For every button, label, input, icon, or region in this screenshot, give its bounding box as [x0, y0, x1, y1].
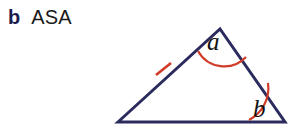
angle-b-label: b [253, 95, 266, 122]
triangle-diagram: a b [0, 0, 292, 128]
congruent-side-tick [156, 63, 171, 75]
angle-a-label: a [207, 28, 220, 55]
geometry-figure: b ASA a b [0, 0, 292, 128]
